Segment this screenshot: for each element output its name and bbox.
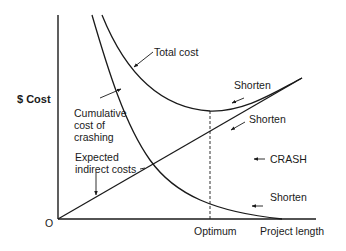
crash-cost-label-3: crashing [74,131,114,143]
crash-cost-label-1: Cumulative [74,107,127,119]
indirect-label-1: Expected [75,151,119,163]
total-cost-pointer-icon [134,52,153,67]
shorten-label-total: Shorten [234,79,271,91]
shorten-arrow-icon [232,98,244,103]
crash-cost-label-2: cost of [74,119,105,131]
total-cost-curve [102,15,302,111]
x-axis-label: Project length [260,225,324,237]
optimum-label: Optimum [194,225,237,237]
shorten-label-crash: Shorten [270,191,307,203]
indirect-label-2: indirect costs [75,163,136,175]
indirect-cost-line [58,78,302,219]
total-cost-label: Total cost [154,46,198,58]
crash-label: CRASH [270,153,307,165]
time-cost-diagram [0,0,346,251]
origin-label: O [45,217,53,229]
shorten-arrow-icon [231,122,245,130]
shorten-label-indirect: Shorten [249,113,286,125]
y-axis-label: $ Cost [17,93,51,105]
